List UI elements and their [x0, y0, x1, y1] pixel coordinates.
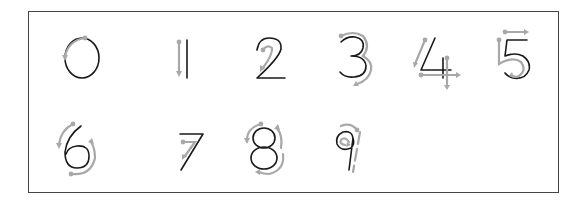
- guide-arrow-icon: [65, 38, 85, 56]
- guide-arrow-icon: [415, 40, 425, 64]
- digit-4: 4: [407, 18, 477, 88]
- digit-8-glyph: [227, 110, 297, 180]
- digit-3: 3: [321, 18, 391, 88]
- digit-1: 1: [147, 18, 217, 88]
- guide-arrow-icon: [499, 40, 524, 77]
- digit-1-glyph: [147, 18, 217, 88]
- digit-5-glyph: [485, 18, 555, 88]
- digit-0-glyph: [37, 18, 107, 88]
- digit-9-glyph: [317, 110, 387, 180]
- digit-7-glyph: [147, 110, 217, 180]
- digit-9: 9: [317, 110, 387, 180]
- digit-5: 5: [485, 18, 555, 88]
- digit-3-glyph: [321, 18, 391, 88]
- digit-0: 0: [37, 18, 107, 88]
- digit-4-glyph: [407, 18, 477, 88]
- digit-8: 8: [227, 110, 297, 180]
- digit-2-glyph: [227, 18, 297, 88]
- worksheet-frame: 0 1 2 3: [28, 11, 559, 193]
- guide-arrow-icon: [247, 124, 261, 140]
- digit-7: 7: [147, 110, 217, 180]
- guide-arrow-icon: [59, 124, 73, 144]
- digit-2: 2: [227, 18, 297, 88]
- digit-6-glyph: [37, 110, 107, 180]
- digit-6: 6: [37, 110, 107, 180]
